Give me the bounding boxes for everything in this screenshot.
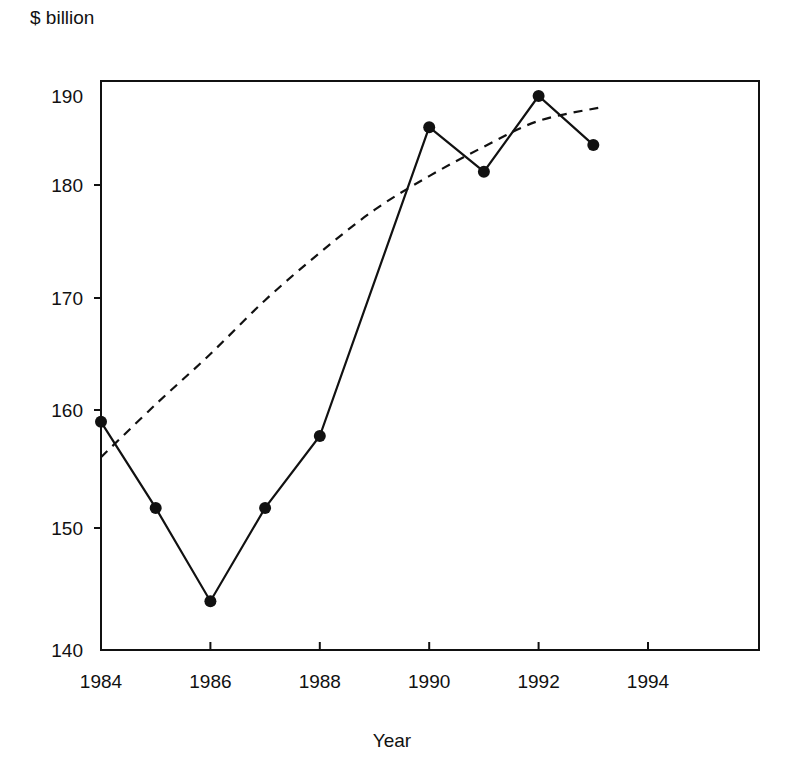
y-tick-label: 170 — [51, 288, 83, 309]
data-point — [478, 166, 490, 178]
actual-series-line — [101, 96, 593, 601]
trend-line-dashed — [101, 107, 604, 458]
data-point — [150, 502, 162, 514]
x-tick-label: 1986 — [189, 671, 231, 692]
y-axis-label: $ billion — [30, 7, 94, 28]
data-point — [95, 416, 107, 428]
x-tick-label: 1994 — [627, 671, 670, 692]
x-tick-label: 1992 — [517, 671, 559, 692]
data-point — [533, 90, 545, 102]
line-chart: $ billion 140150160170180190 19841986198… — [0, 0, 789, 762]
y-tick-label: 180 — [51, 175, 83, 196]
y-tick-label: 150 — [51, 518, 83, 539]
data-point-markers — [95, 90, 599, 607]
y-tick-label: 160 — [51, 400, 83, 421]
data-point — [259, 502, 271, 514]
x-tick-label: 1984 — [80, 671, 123, 692]
data-point — [423, 121, 435, 133]
x-tick-label: 1988 — [299, 671, 341, 692]
y-tick-label: 140 — [51, 640, 83, 661]
y-axis-ticks: 140150160170180190 — [51, 86, 101, 661]
data-point — [314, 430, 326, 442]
data-point — [587, 139, 599, 151]
y-tick-label: 190 — [51, 86, 83, 107]
x-axis-label: Year — [373, 730, 412, 751]
x-tick-label: 1990 — [408, 671, 450, 692]
data-point — [204, 595, 216, 607]
